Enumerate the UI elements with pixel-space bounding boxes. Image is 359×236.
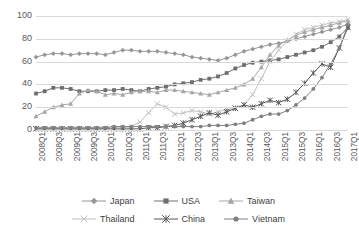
data-point-diamond <box>34 55 39 60</box>
data-point-diamond <box>198 56 203 61</box>
data-point-diamond <box>172 51 177 56</box>
data-point-diamond <box>250 47 255 52</box>
legend-item-china[interactable]: China <box>153 213 206 225</box>
data-point-square <box>207 77 211 81</box>
data-point-diamond <box>91 198 98 205</box>
data-point-square <box>225 71 229 75</box>
data-point-triangle <box>42 109 47 113</box>
legend-symbol-cross <box>71 213 97 225</box>
data-point-diamond <box>77 51 82 56</box>
series-line <box>36 25 348 128</box>
legend-symbol-square <box>153 195 179 207</box>
grid-line <box>36 39 348 40</box>
grid-line <box>36 62 348 63</box>
data-point-diamond <box>233 52 238 57</box>
grid-line <box>36 16 348 17</box>
legend-symbol-diamond <box>81 195 107 207</box>
data-point-circle <box>121 125 125 129</box>
data-point-circle <box>190 125 194 129</box>
data-point-star <box>189 117 195 123</box>
y-axis: 020406080100 <box>0 0 32 146</box>
data-point-diamond <box>242 49 247 54</box>
x-axis-line <box>36 130 348 131</box>
x-axis-tick-label: 2011Q3 <box>160 132 168 161</box>
legend-item-japan[interactable]: Japan <box>81 195 135 207</box>
data-point-star <box>285 96 291 102</box>
x-axis-tick-label: 2008Q1 <box>39 132 47 161</box>
legend-item-vietnam[interactable]: Vietnam <box>223 213 285 225</box>
series-layer <box>36 16 348 130</box>
y-axis-tick-label: 20 <box>2 102 32 111</box>
data-point-circle <box>216 124 220 128</box>
x-axis: 2008Q12008Q32009Q12009Q32010Q12010Q32011… <box>36 132 348 190</box>
data-point-cross <box>259 76 264 81</box>
data-point-circle <box>320 76 324 80</box>
x-axis-tick-label: 2012Q3 <box>195 132 203 161</box>
data-point-circle <box>199 125 203 129</box>
legend-label: Thailand <box>100 214 135 224</box>
data-point-circle <box>129 125 133 129</box>
data-point-diamond <box>68 52 73 57</box>
legend-marker-icon <box>223 213 249 225</box>
data-point-circle <box>277 112 281 116</box>
x-axis-tick-label: 2015Q1 <box>282 132 290 161</box>
data-point-star <box>311 70 317 76</box>
data-point-diamond <box>120 48 125 53</box>
x-axis-tick-label: 2015Q3 <box>299 132 307 161</box>
y-axis-tick-label: 60 <box>2 57 32 66</box>
data-point-circle <box>173 125 177 129</box>
x-axis-tick-label: 2010Q1 <box>108 132 116 161</box>
data-point-circle <box>268 112 272 116</box>
data-point-circle <box>346 23 350 27</box>
legend-item-usa[interactable]: USA <box>153 195 201 207</box>
data-point-diamond <box>155 49 160 54</box>
y-axis-tick-label: 100 <box>2 11 32 20</box>
data-point-square <box>155 86 159 90</box>
legend-marker-icon <box>71 213 97 225</box>
data-point-circle <box>233 122 237 126</box>
data-point-diamond <box>311 32 316 37</box>
data-point-diamond <box>51 51 56 56</box>
x-axis-tick-label: 2013Q1 <box>212 132 220 161</box>
data-point-square <box>34 92 38 96</box>
data-point-diamond <box>94 51 99 56</box>
data-point-circle <box>303 96 307 100</box>
series-thailand <box>34 17 351 131</box>
data-point-diamond <box>259 44 264 49</box>
data-point-circle <box>155 125 159 129</box>
legend-item-taiwan[interactable]: Taiwan <box>218 195 275 207</box>
data-point-diamond <box>181 52 186 57</box>
data-point-diamond <box>268 42 273 47</box>
x-axis-tick-label: 2014Q3 <box>264 132 272 161</box>
data-point-diamond <box>86 51 91 56</box>
plot-area <box>36 16 348 130</box>
data-point-circle <box>337 46 341 50</box>
data-point-circle <box>112 125 116 129</box>
data-point-circle <box>251 118 255 122</box>
data-point-circle <box>147 125 151 129</box>
x-axis-tick-label: 2009Q1 <box>74 132 82 161</box>
data-point-cross <box>138 120 143 125</box>
data-point-square <box>242 63 246 67</box>
data-point-square <box>294 53 298 57</box>
data-point-diamond <box>320 30 325 35</box>
data-point-circle <box>259 114 263 118</box>
x-axis-tick-label: 2009Q3 <box>91 132 99 161</box>
legend-label: Japan <box>110 196 135 206</box>
y-axis-tick-label: 40 <box>2 79 32 88</box>
data-point-diamond <box>103 52 108 57</box>
data-point-square <box>329 40 333 44</box>
legend-item-thailand[interactable]: Thailand <box>71 213 135 225</box>
legend-marker-icon <box>81 195 107 207</box>
legend-symbol-circle <box>223 213 249 225</box>
data-point-cross <box>250 92 255 97</box>
data-point-circle <box>285 109 289 113</box>
data-point-diamond <box>129 48 134 53</box>
data-point-diamond <box>138 49 143 54</box>
data-point-circle <box>181 125 185 129</box>
data-point-square <box>60 86 64 90</box>
legend-label: Taiwan <box>247 196 275 206</box>
series-china <box>33 25 351 132</box>
series-line <box>36 21 348 117</box>
data-point-circle <box>164 125 168 129</box>
